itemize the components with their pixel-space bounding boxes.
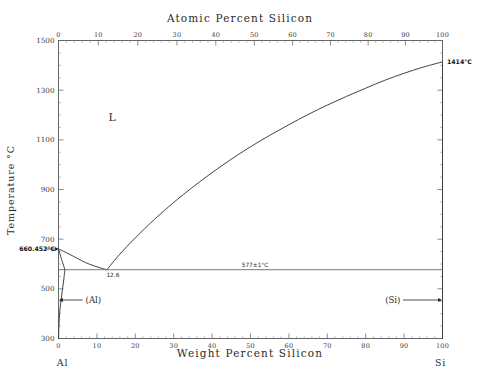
bottom-axis-tick-label: 90	[400, 342, 409, 350]
annotation-al-melting-point: 660.452°C	[19, 245, 58, 252]
top-axis-tick-label: 90	[401, 31, 410, 39]
plot-frame	[59, 41, 443, 339]
curve-si-liquidus	[107, 62, 443, 270]
left-axis-title: Temperature °C	[5, 145, 16, 235]
phase-label-al-solid-solution: (Al)	[59, 295, 101, 305]
annotation-eutectic-temperature: 577±1°C	[242, 262, 269, 268]
bottom-axis-tick-label: 80	[361, 342, 370, 350]
left-axis-tick-label: 1100	[36, 135, 55, 144]
left-axis-ticks	[59, 41, 64, 339]
al-si-phase-diagram: 0102030405060708090100 Atomic Percent Si…	[0, 0, 480, 371]
left-axis-tick-label: 1300	[36, 86, 55, 95]
svg-text:(Al): (Al)	[86, 295, 102, 305]
left-axis-tick-label: 300	[41, 334, 55, 343]
top-axis-tick-label: 60	[288, 31, 297, 39]
top-axis-tick-labels: 0102030405060708090100	[56, 31, 449, 39]
phase-label-si-solid-solution: (Si)	[385, 295, 442, 305]
top-axis-title: Atomic Percent Silicon	[166, 12, 313, 24]
right-axis-ticks	[438, 41, 443, 339]
curve-al-solidus	[59, 249, 65, 270]
left-axis-tick-label: 700	[41, 235, 55, 244]
top-axis-ticks	[59, 41, 443, 46]
bottom-axis-tick-label: 20	[131, 342, 140, 350]
curve-al-solvus	[59, 270, 65, 339]
top-axis-tick-label: 80	[364, 31, 373, 39]
left-axis-tick-label: 500	[41, 284, 55, 293]
left-axis-tick-label: 900	[41, 185, 55, 194]
endmember-label-si: Si	[435, 357, 446, 368]
bottom-axis-tick-label: 70	[323, 342, 332, 350]
endmember-label-al: Al	[56, 357, 69, 368]
left-axis-tick-label: 1500	[36, 36, 55, 45]
top-axis-tick-label: 30	[173, 31, 182, 39]
bottom-axis-title: Weight Percent Silicon	[177, 347, 323, 359]
annotation-eutectic-composition: 12.6	[106, 272, 119, 278]
curve-al-liquidus	[59, 249, 107, 270]
bottom-axis-tick-label: 100	[436, 342, 449, 350]
top-axis-tick-label: 100	[436, 31, 449, 39]
top-axis-tick-label: 50	[250, 31, 259, 39]
top-axis-tick-label: 70	[326, 31, 335, 39]
left-axis-tick-labels: 300500700900110013001500	[36, 36, 55, 343]
top-axis-tick-label: 0	[56, 31, 60, 39]
bottom-axis-tick-label: 0	[56, 342, 60, 350]
top-axis-tick-label: 20	[133, 31, 142, 39]
annotation-si-melting-point: 1414°C	[447, 58, 472, 65]
bottom-axis-ticks	[59, 334, 443, 339]
top-axis-tick-label: 40	[211, 31, 220, 39]
phase-label-liquid: L	[109, 111, 117, 124]
phase-diagram-canvas: 0102030405060708090100 Atomic Percent Si…	[0, 0, 480, 371]
top-axis-tick-label: 10	[94, 31, 103, 39]
svg-text:(Si): (Si)	[385, 295, 400, 305]
bottom-axis-tick-label: 10	[93, 342, 102, 350]
